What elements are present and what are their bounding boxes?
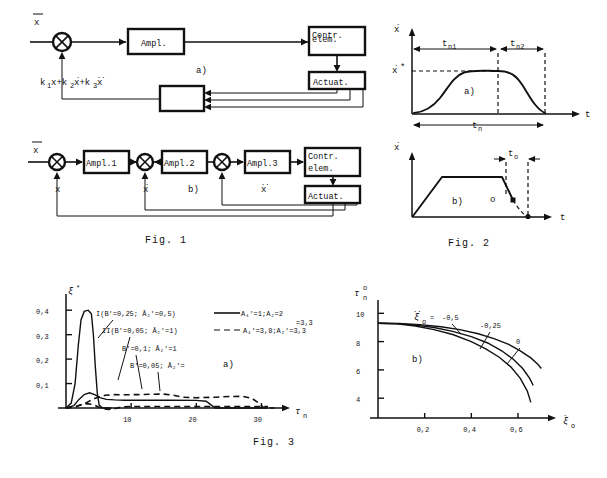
fig2a-y-axis-label: x. [394,19,400,35]
fig1-caption-text: Fig. 1 [145,235,187,246]
svg-text:.: . [396,137,400,145]
figure-3b: τ n o ξ . o 0,20,40,646810 ξ .. o = -0,5… [330,272,607,432]
svg-text:o: o [514,153,518,161]
fig3b-curve-group-label: ξ .. o = [413,306,434,326]
svg-text:t: t [472,121,477,131]
svg-text:o: o [422,318,426,326]
fig1a-block-actuat: Actuat. [309,72,365,89]
fig3a-legend-label-1: A₁′=1;A₂=2 [241,310,283,318]
fig2a-span-tn1: t n1 [413,39,497,52]
fig1b-label-xddot: x.. [261,179,269,195]
fig3a-ytick-label: 0,4 [36,308,49,316]
fig1a-input-label: x [33,14,43,28]
svg-text:.: . [145,179,149,187]
svg-text:t: t [442,39,447,49]
svg-text:t: t [510,39,515,49]
svg-text:*: * [76,284,80,292]
svg-text:.: . [563,410,567,418]
svg-text:n2: n2 [516,43,524,51]
figure-2b: x. t t o o b) [380,132,607,232]
fig3a-legend-overflow: =3,3 [296,312,313,330]
svg-text:t: t [508,149,513,159]
svg-text:..: .. [97,72,105,80]
svg-text:o: o [571,422,575,430]
fig3a-ytick-label: 0,2 [36,357,49,365]
fig3b-xtick-label: 0,2 [417,426,430,434]
fig3b-curve-label-3: 0 [516,338,520,346]
svg-text:.: . [394,60,398,68]
fig3b-series-group [378,323,541,402]
svg-text:x+k: x+k [51,78,67,88]
svg-text:n1: n1 [448,43,456,51]
fig3a-annotation-3: B′=0,1; Ā₂′=1 [122,345,177,353]
figure-1a: x Ampl. Contr. elem. Actuat. a) k 1 x+k … [0,0,380,125]
fig1b-actuat-label: Actuat. [308,192,344,202]
fig3b-curve-label-2: -0,25 [480,322,501,330]
fig3a-annotation-2: II(B′=0,05; Ā₂′=1) [102,327,178,335]
fig1b-summing-junction-2 [137,154,153,170]
fig3a-xtick-label: 10 [123,416,131,424]
figure-2-caption: Fig. 2 [448,233,490,251]
fig2b-panel-label: b) [452,197,463,207]
fig3a-ytick-label: 0,1 [36,382,49,390]
svg-text:n: n [363,294,367,302]
fig2b-span-to: t o [494,149,540,162]
fig1b-block-ampl3: Ampl.3 [245,151,290,173]
figure-1-caption: Fig. 1 [145,230,187,248]
svg-text:=: = [430,314,434,322]
fig3b-ytick-label: 6 [356,368,360,376]
fig1b-ampl2-label: Ampl.2 [164,159,195,169]
fig2-caption-text: Fig. 2 [448,238,490,249]
fig3a-panel-label: a) [223,360,234,370]
fig1a-panel-label: a) [196,66,207,76]
fig1a-return-wires [204,89,363,110]
fig3b-ytick-label: 10 [356,311,364,319]
fig3b-xtick-label: 0,6 [510,426,523,434]
fig1b-label-x: x [55,185,60,195]
fig3a-x-axis-label: τn [295,407,307,420]
figure-2a: x. t x.* t n1 t n2 t n a) [380,18,607,130]
figure-3-caption: Fig. 3 [253,432,295,450]
fig3b-x-axis-label: ξ . o [563,410,575,430]
fig2b-point-label: o [490,195,495,205]
fig1b-summing-junction-3 [214,154,230,170]
fig1b-block-ampl2: Ampl.2 [162,151,207,173]
fig1b-contr-line2: elem. [308,164,334,174]
figure-1b: x Ampl.1 Ampl.2 Ampl.3 [0,130,380,222]
fig3a-xtick-label: 20 [188,416,196,424]
fig1b-summing-junction-1 [49,154,65,170]
fig3a-annotation-1: I(B′=0,25; Ā₂′=0,5) [96,310,176,318]
fig1a-feedback-block [160,86,204,111]
fig1b-input-label: x [32,142,42,156]
fig2a-span-tn2: t n2 [500,39,544,52]
fig3-caption-text: Fig. 3 [253,437,295,448]
fig2a-curve [414,71,545,113]
fig1b-contr-line1: Contr. [308,152,339,162]
svg-text:x: x [34,18,39,28]
fig2b-y-axis-label: x. [394,137,400,153]
fig1a-feedback-expression: k 1 x+k 2 x+k 3 x . .. [40,72,105,90]
svg-text:.: . [76,72,80,80]
svg-text:n: n [303,412,307,420]
svg-text:ξ: ξ [68,287,74,297]
svg-text:..: .. [261,179,269,187]
fig1a-contr-line2: elem. [312,35,338,45]
fig2b-x-axis-label: t [560,213,565,223]
fig3a-legend-overflow-text: =3,3 [296,319,313,327]
fig1b-block-ampl1: Ampl.1 [84,151,129,173]
svg-text:τ: τ [295,407,301,417]
fig2b-trapezoid [413,177,513,216]
fig3b-xtick-label: 0,4 [463,426,476,434]
fig1b-ampl3-label: Ampl.3 [247,159,278,169]
fig3b-y-axis-label: τ n o [354,284,367,302]
svg-text:ξ: ξ [563,417,569,427]
figure-3a: ξ* τn 1020300,10,20,30,4 I(B′=0,25; Ā₂′=… [18,272,328,432]
fig1b-label-xdot: x. [143,179,149,195]
fig3b-panel-label: b) [412,355,423,365]
fig1b-block-actuat: Actuat. [305,186,360,203]
svg-text:x: x [33,146,38,156]
fig3b-curve-label-1: -0,5 [442,314,459,322]
fig1b-panel-label: b) [188,185,199,195]
fig3a-legend: A₁′=1;A₂=2 A₁′=3,8;A₂′=3,3 [214,310,306,335]
fig3b-series-line [378,323,533,385]
